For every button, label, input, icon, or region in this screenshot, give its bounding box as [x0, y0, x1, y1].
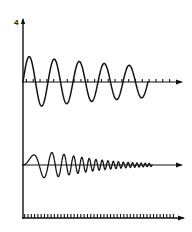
lower-axis-arrow-icon — [176, 162, 183, 167]
upper-axis-arrow-icon — [176, 79, 183, 84]
damped-oscillation-curve — [23, 57, 148, 106]
figure-container: 4 — [0, 0, 192, 232]
y-axis-top-label: 4 — [14, 18, 19, 27]
axes-group — [21, 18, 185, 221]
bottom-axis-arrow-icon — [178, 215, 185, 220]
curves-group — [23, 57, 152, 178]
y-axis-arrow-icon — [21, 18, 25, 24]
waveform-plot: 4 — [0, 0, 192, 232]
